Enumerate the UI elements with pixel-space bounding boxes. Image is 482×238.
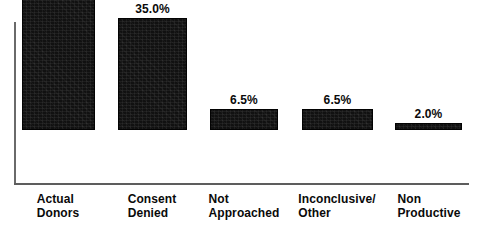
x-tick-label-non-productive: Non Productive [397, 192, 460, 220]
plot-area: 50.0% 35.0% 6.5% 6.5% 2.0% Actual [0, 0, 482, 238]
x-tick-label-line1: Consent [128, 192, 177, 206]
bar-value-label: 35.0% [135, 2, 170, 16]
bar-rect [118, 18, 187, 130]
bar-series: 50.0% 35.0% 6.5% 6.5% 2.0% [0, 0, 482, 185]
x-tick-label-line2: Productive [397, 206, 460, 220]
cropped-caption-artifact [0, 231, 482, 238]
x-tick-label-inconclusive-other: Inconclusive/ Other [298, 192, 375, 220]
bar-rect [395, 123, 462, 130]
bar-value-label: 6.5% [324, 93, 352, 107]
bar-rect [302, 109, 373, 130]
x-tick-label-line1: Inconclusive/ [298, 192, 375, 206]
x-tick-label-line2: Donors [37, 206, 80, 220]
bar-rect [22, 0, 95, 130]
x-tick-label-line1: Actual [37, 192, 74, 206]
bar-value-label: 2.0% [415, 107, 443, 121]
x-tick-label-line2: Approached [208, 206, 279, 220]
x-tick-label-not-approached: Not Approached [208, 192, 279, 220]
bar-chart: 50.0% 35.0% 6.5% 6.5% 2.0% Actual [0, 0, 482, 238]
x-tick-label-consent-denied: Consent Denied [128, 192, 177, 220]
x-tick-label-line2: Other [298, 206, 375, 220]
x-tick-label-line2: Denied [128, 206, 177, 220]
x-tick-label-line1: Not [208, 192, 228, 206]
bar-rect [210, 109, 278, 130]
bar-value-label: 6.5% [230, 93, 258, 107]
x-tick-label-line1: Non [397, 192, 421, 206]
x-tick-label-actual-donors: Actual Donors [37, 192, 80, 220]
